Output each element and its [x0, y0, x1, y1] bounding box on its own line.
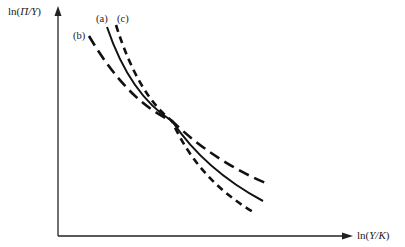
y-axis-label: ln(Π/Y): [8, 5, 41, 17]
curve-b-label: (b): [73, 30, 85, 41]
y-label-var: Π/Y: [20, 5, 37, 17]
curve-b: [89, 36, 268, 184]
curve-a-label: (a): [96, 13, 108, 24]
x-axis-label: ln(Y/K): [357, 229, 389, 241]
curve-a: [107, 27, 263, 201]
x-label-var: Y/K: [369, 229, 386, 241]
curve-c: [116, 25, 255, 213]
x-label-prefix: ln: [357, 229, 366, 241]
curve-c-label: (c): [117, 13, 129, 24]
chart-canvas: [0, 0, 405, 247]
y-label-prefix: ln: [8, 5, 17, 17]
x-axis-arrow-icon: [342, 233, 353, 240]
y-axis-arrow-icon: [55, 6, 62, 16]
